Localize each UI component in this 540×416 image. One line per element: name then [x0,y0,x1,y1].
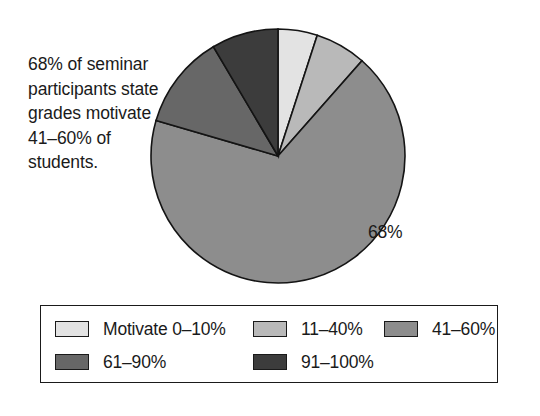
legend-row: 61–90% 91–100% [41,347,497,377]
legend-swatch-icon [55,321,89,337]
pie-chart: 68% [146,24,410,288]
chart-legend: Motivate 0–10% 11–40% 41–60% 61–90% 91–1… [40,305,498,383]
legend-item-label: 41–60% [432,319,495,340]
legend-item-label: Motivate 0–10% [103,319,226,340]
legend-swatch-icon [55,354,89,370]
legend-swatch-icon [253,321,287,337]
legend-item-91-100[interactable]: 91–100% [253,347,374,377]
legend-item-41-60[interactable]: 41–60% [384,314,495,344]
legend-item-label: 11–40% [301,319,363,340]
legend-item-11-40[interactable]: 11–40% [253,314,363,344]
legend-item-label: 61–90% [103,352,166,373]
legend-item-motivate-0-10[interactable]: Motivate 0–10% [55,314,226,344]
legend-item-label: 91–100% [301,352,374,373]
legend-row: Motivate 0–10% 11–40% 41–60% [41,314,497,344]
legend-swatch-icon [253,354,287,370]
chart-figure: 68% of seminar participants state grades… [0,0,540,416]
pie-slice-value-label: 68% [368,222,402,243]
pie-chart-svg [146,24,410,288]
legend-swatch-icon [384,321,418,337]
pie-slice-group [151,29,405,283]
legend-item-61-90[interactable]: 61–90% [55,347,166,377]
